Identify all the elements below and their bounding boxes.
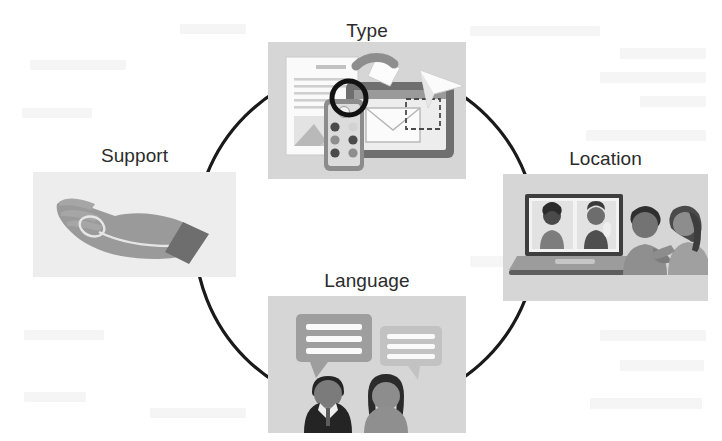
avatar-woman-icon bbox=[364, 374, 408, 433]
cycle-node-location[interactable]: Location bbox=[503, 148, 708, 304]
cycle-node-language[interactable]: Language bbox=[268, 270, 466, 434]
cycle-node-support-image bbox=[33, 172, 236, 277]
cycle-diagram: Type bbox=[0, 0, 722, 441]
cycle-node-location-image bbox=[503, 174, 708, 301]
cycle-node-location-label: Location bbox=[503, 148, 708, 170]
laptop-video-call-icon bbox=[509, 194, 639, 275]
cycle-node-language-image bbox=[268, 296, 466, 433]
cycle-node-type-label: Type bbox=[268, 20, 466, 42]
cycle-node-type[interactable]: Type bbox=[268, 20, 466, 180]
cycle-node-language-label: Language bbox=[268, 270, 466, 292]
cycle-node-support[interactable]: Support bbox=[33, 145, 236, 278]
cycle-node-type-image bbox=[268, 42, 466, 179]
cycle-node-support-label: Support bbox=[33, 145, 236, 167]
